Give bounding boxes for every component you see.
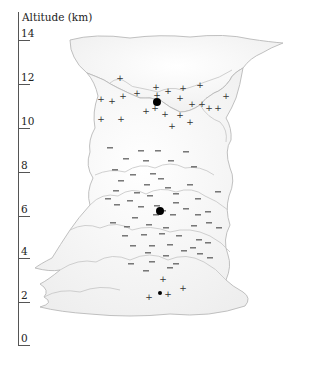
negative-charge-icon xyxy=(107,147,113,148)
positive-charge-icon: + xyxy=(108,97,116,106)
negative-charge-icon xyxy=(167,244,173,245)
negative-charge-icon xyxy=(144,184,150,185)
negative-charge-icon xyxy=(191,166,197,167)
negative-charge-icon xyxy=(205,242,211,243)
negative-charge-icon xyxy=(191,225,197,226)
negative-charge-icon xyxy=(138,150,144,151)
negative-charge-icon xyxy=(183,208,189,209)
positive-charge-icon: + xyxy=(179,84,187,93)
negative-charge-icon xyxy=(159,233,165,234)
positive-charge-icon: + xyxy=(97,95,105,104)
negative-charge-icon xyxy=(163,227,169,228)
negative-charge-icon xyxy=(187,184,193,185)
positive-charge-icon: + xyxy=(116,74,124,83)
charge-center-dot-icon xyxy=(156,207,164,215)
positive-charge-icon: + xyxy=(145,293,153,302)
negative-charge-icon xyxy=(130,245,136,246)
negative-charge-icon xyxy=(112,169,118,170)
positive-charge-icon: + xyxy=(164,87,172,96)
positive-charge-icon: + xyxy=(214,104,222,113)
positive-charge-icon: + xyxy=(164,290,172,299)
negative-charge-icon xyxy=(130,174,136,175)
negative-charge-icon xyxy=(168,160,174,161)
negative-charge-icon xyxy=(190,247,196,248)
negative-charge-icon xyxy=(183,151,189,152)
negative-charge-icon xyxy=(150,173,156,174)
negative-charge-icon xyxy=(197,253,203,254)
negative-charge-icon xyxy=(155,150,161,151)
positive-charge-icon: + xyxy=(159,275,167,284)
negative-charge-icon xyxy=(127,200,133,201)
negative-charge-icon xyxy=(205,211,211,212)
negative-charge-icon xyxy=(196,239,202,240)
positive-charge-icon: + xyxy=(179,284,187,293)
negative-charge-icon xyxy=(141,234,147,235)
negative-charge-icon xyxy=(147,195,153,196)
charge-center-dot-icon xyxy=(153,98,161,106)
positive-charge-icon: + xyxy=(119,92,127,101)
negative-charge-icon xyxy=(170,214,176,215)
positive-charge-icon: + xyxy=(168,122,176,131)
negative-charge-icon xyxy=(143,160,149,161)
negative-charge-icon xyxy=(158,178,164,179)
negative-charge-icon xyxy=(195,198,201,199)
positive-charge-icon: + xyxy=(117,115,125,124)
negative-charge-icon xyxy=(173,193,179,194)
negative-charge-icon xyxy=(146,224,152,225)
negative-charge-icon xyxy=(123,158,129,159)
positive-charge-icon: + xyxy=(222,92,230,101)
positive-charge-icon: + xyxy=(176,94,184,103)
positive-charge-icon: + xyxy=(188,100,196,109)
negative-charge-icon xyxy=(132,217,138,218)
negative-charge-icon xyxy=(113,190,119,191)
negative-charge-icon xyxy=(128,263,134,264)
negative-charge-icon xyxy=(167,267,173,268)
negative-charge-icon xyxy=(114,204,120,205)
negative-charge-icon xyxy=(181,250,187,251)
negative-charge-icon xyxy=(149,245,155,246)
negative-charge-icon xyxy=(124,226,130,227)
negative-charge-icon xyxy=(206,222,212,223)
negative-charge-icon xyxy=(145,252,151,253)
positive-charge-icon: + xyxy=(161,110,169,119)
charge-center-dot-icon xyxy=(158,291,162,295)
negative-charge-icon xyxy=(118,180,124,181)
negative-charge-icon xyxy=(207,257,213,258)
negative-charge-icon xyxy=(105,198,111,199)
negative-charge-icon xyxy=(173,202,179,203)
negative-charge-icon xyxy=(176,235,182,236)
negative-charge-icon xyxy=(149,261,155,262)
positive-charge-icon: + xyxy=(142,107,150,116)
negative-charge-icon xyxy=(134,192,140,193)
positive-charge-icon: + xyxy=(133,89,141,98)
negative-charge-icon xyxy=(143,270,149,271)
positive-charge-icon: + xyxy=(205,104,213,113)
negative-charge-icon xyxy=(122,235,128,236)
negative-charge-icon xyxy=(163,255,169,256)
negative-charge-icon xyxy=(173,263,179,264)
positive-charge-icon: + xyxy=(196,81,204,90)
negative-charge-icon xyxy=(195,214,201,215)
positive-charge-icon: + xyxy=(97,115,105,124)
negative-charge-icon xyxy=(215,191,221,192)
negative-charge-icon xyxy=(216,227,222,228)
positive-charge-icon: + xyxy=(186,118,194,127)
negative-charge-icon xyxy=(138,206,144,207)
negative-charge-icon xyxy=(165,187,171,188)
negative-charge-icon xyxy=(110,222,116,223)
positive-charge-icon: + xyxy=(176,111,184,120)
